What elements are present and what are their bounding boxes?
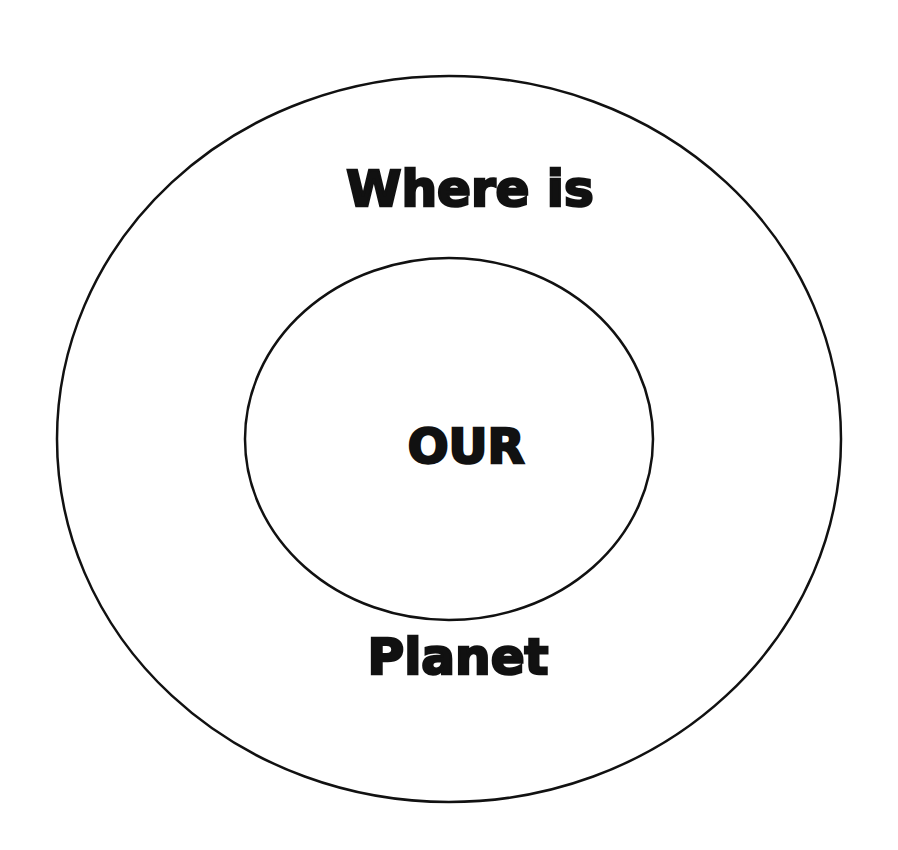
label-our: OUR [408, 418, 525, 474]
label-planet: Planet [368, 628, 549, 686]
label-where-is: Where is [346, 160, 594, 218]
